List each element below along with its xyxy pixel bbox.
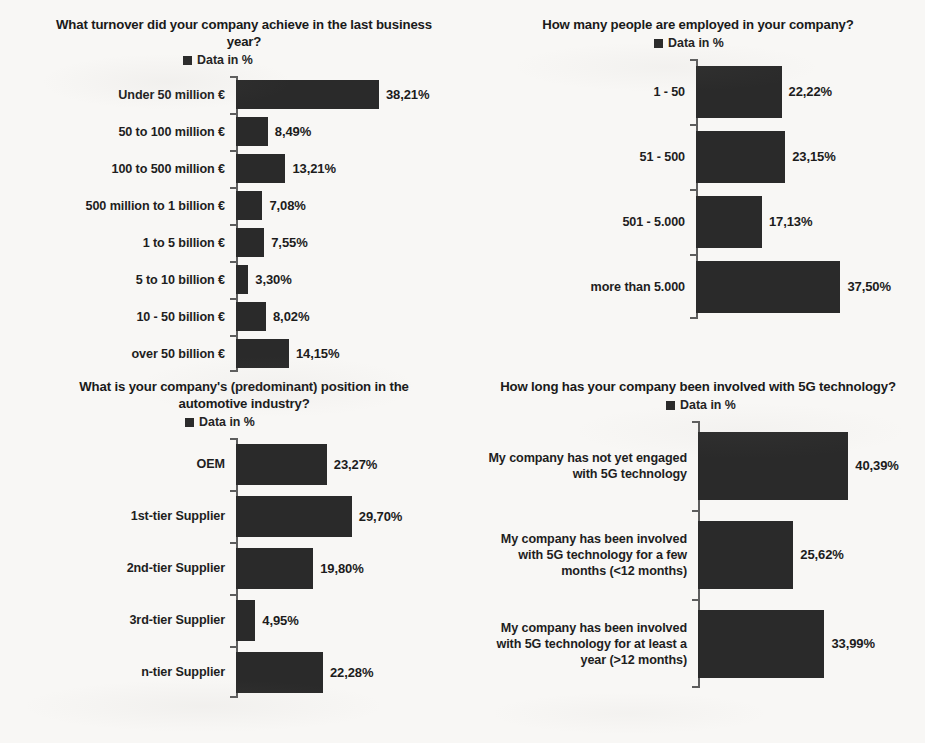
bar [236, 600, 255, 641]
bar-value-label: 40,39% [848, 458, 899, 473]
bar-value-label: 33,99% [824, 636, 875, 651]
bar-row: 10 - 50 billion €8,02% [18, 298, 470, 335]
chart-legend-employees: Data in % [460, 36, 918, 50]
bar-category-label: 1 - 50 [478, 84, 696, 100]
bar-track: 25,62% [698, 510, 918, 599]
bar-row: My company has been involved with 5G tec… [478, 599, 918, 688]
bar-row: 100 to 500 million €13,21% [18, 150, 470, 187]
chart-panel-employees: How many people are employed in your com… [478, 16, 918, 319]
bar [236, 265, 248, 294]
bar-track: 14,15% [236, 335, 470, 372]
bar-category-label: 2nd-tier Supplier [18, 560, 236, 576]
chart-title-employees: How many people are employed in your com… [488, 16, 908, 33]
plot-area-position: OEM23,27%1st-tier Supplier29,70%2nd-tier… [18, 438, 470, 698]
bar-row: 1 - 5022,22% [478, 59, 918, 124]
legend-swatch-icon [183, 56, 192, 65]
bar-value-label: 14,15% [289, 346, 340, 361]
chart-title-position: What is your company's (predominant) pos… [53, 378, 435, 412]
bar [696, 196, 762, 248]
bar [236, 302, 266, 331]
bar-row: 1 to 5 billion €7,55% [18, 224, 470, 261]
bar-category-label: My company has been involved with 5G tec… [478, 620, 698, 668]
bar-value-label: 8,02% [266, 309, 309, 324]
bar-track: 29,70% [236, 490, 470, 542]
bar [236, 228, 264, 257]
bar-category-label: 1 to 5 billion € [18, 235, 236, 251]
plot-area-5g: My company has not yet engaged with 5G t… [478, 421, 918, 688]
bar-row: My company has not yet engaged with 5G t… [478, 421, 918, 510]
bar-row: 501 - 5.00017,13% [478, 189, 918, 254]
bar-category-label: 51 - 500 [478, 149, 696, 165]
bar-value-label: 7,08% [262, 198, 305, 213]
bar-value-label: 38,21% [379, 87, 430, 102]
bar-row: 3rd-tier Supplier4,95% [18, 594, 470, 646]
bar-track: 23,27% [236, 438, 470, 490]
bar-track: 3,30% [236, 261, 470, 298]
bar-value-label: 7,55% [264, 235, 307, 250]
legend-label: Data in % [199, 415, 255, 429]
bar-category-label: 500 million to 1 billion € [18, 198, 236, 214]
bar-track: 4,95% [236, 594, 470, 646]
chart-legend-position: Data in % [0, 415, 470, 429]
bar [696, 261, 840, 313]
bar [236, 444, 327, 485]
bar-row: 5 to 10 billion €3,30% [18, 261, 470, 298]
chart-title-5g: How long has your company been involved … [498, 378, 898, 395]
bar-value-label: 23,15% [785, 149, 836, 164]
bar-value-label: 22,28% [323, 665, 374, 680]
bar [236, 191, 262, 220]
bar-category-label: more than 5.000 [478, 279, 696, 295]
bar-row: My company has been involved with 5G tec… [478, 510, 918, 599]
chart-legend-turnover: Data in % [0, 53, 470, 67]
bar-value-label: 37,50% [840, 279, 891, 294]
bar [236, 339, 289, 368]
bar-category-label: 501 - 5.000 [478, 214, 696, 230]
bar-row: 50 to 100 million €8,49% [18, 113, 470, 150]
bar-category-label: 10 - 50 billion € [18, 309, 236, 325]
bar [236, 117, 268, 146]
bar-row: n-tier Supplier22,28% [18, 646, 470, 698]
bar-row: 500 million to 1 billion €7,08% [18, 187, 470, 224]
bar-category-label: over 50 billion € [18, 346, 236, 362]
bar [236, 652, 323, 693]
plot-area-turnover: Under 50 million €38,21%50 to 100 millio… [18, 76, 470, 372]
bar-track: 17,13% [696, 189, 918, 254]
bar-track: 7,55% [236, 224, 470, 261]
bar-value-label: 29,70% [352, 509, 403, 524]
bar [236, 548, 313, 589]
bar [236, 154, 285, 183]
bar [696, 131, 785, 183]
bar-category-label: 50 to 100 million € [18, 124, 236, 140]
bar-category-label: 100 to 500 million € [18, 161, 236, 177]
bar-track: 33,99% [698, 599, 918, 688]
bar-value-label: 22,22% [782, 84, 833, 99]
bar-row: 2nd-tier Supplier19,80% [18, 542, 470, 594]
chart-panel-turnover: What turnover did your company achieve i… [18, 16, 470, 372]
legend-label: Data in % [197, 53, 253, 67]
bar [696, 66, 782, 118]
bar-category-label: 3rd-tier Supplier [18, 612, 236, 628]
bar-track: 13,21% [236, 150, 470, 187]
legend-swatch-icon [185, 418, 194, 427]
bar-track: 19,80% [236, 542, 470, 594]
chart-legend-5g: Data in % [484, 398, 918, 412]
bar-category-label: Under 50 million € [18, 87, 236, 103]
bar-row: Under 50 million €38,21% [18, 76, 470, 113]
bar-track: 38,21% [236, 76, 470, 113]
bar-track: 22,22% [696, 59, 918, 124]
bar-track: 37,50% [696, 254, 918, 319]
bar [698, 610, 824, 678]
bar-value-label: 4,95% [255, 613, 298, 628]
bar-category-label: OEM [18, 456, 236, 472]
bar-row: 1st-tier Supplier29,70% [18, 490, 470, 542]
bar [236, 80, 379, 109]
bar-category-label: n-tier Supplier [18, 664, 236, 680]
chart-panel-position: What is your company's (predominant) pos… [18, 378, 470, 698]
bar-value-label: 23,27% [327, 457, 378, 472]
bar-track: 23,15% [696, 124, 918, 189]
bar-value-label: 13,21% [285, 161, 336, 176]
plot-area-employees: 1 - 5022,22%51 - 50023,15%501 - 5.00017,… [478, 59, 918, 319]
bar-value-label: 3,30% [248, 272, 291, 287]
bar [236, 496, 352, 537]
bar-row: more than 5.00037,50% [478, 254, 918, 319]
